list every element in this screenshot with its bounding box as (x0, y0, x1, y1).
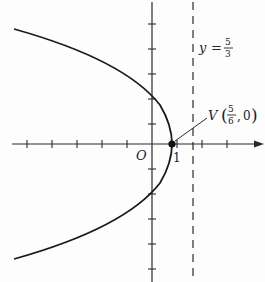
vertex-point (168, 140, 175, 147)
vertex-leader-line (175, 118, 207, 141)
directrix-label-var: y (198, 40, 207, 55)
directrix-label-eq: = (211, 40, 222, 55)
x-tick-label-1: 1 (173, 151, 181, 165)
vertex-label-lparen: ( (221, 105, 228, 125)
vertex-label-den: 6 (228, 116, 234, 126)
vertex-label-comma: , (237, 109, 241, 123)
vertex-label-rparen: ) (251, 105, 258, 125)
origin-label: O (136, 148, 147, 163)
vertex-label-num: 5 (228, 104, 234, 114)
graph-canvas: O 1 y = 5 3 V ( 5 6 , 0 ) (0, 0, 265, 282)
directrix-label-den: 3 (225, 49, 231, 59)
parabola-figure: O 1 y = 5 3 V ( 5 6 , 0 ) (0, 0, 265, 282)
directrix-label-num: 5 (225, 37, 231, 47)
vertex-label-y: 0 (243, 109, 251, 123)
directrix-label: y = 5 3 (198, 37, 233, 59)
vertex-label: V ( 5 6 , 0 ) (208, 104, 258, 126)
vertex-label-letter: V (208, 108, 219, 123)
x-axis-arrow-icon (254, 141, 264, 148)
